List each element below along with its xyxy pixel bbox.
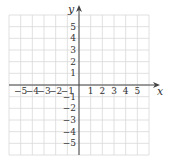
y-tick-label: 2 [70,57,76,67]
x-tick-labels: −5−4−3−2−112345 [14,86,140,96]
y-tick-label: 3 [70,45,76,55]
y-tick-label: −2 [63,103,76,113]
x-axis-label: x [157,85,164,98]
coordinate-plane: x y −5−4−3−2−112345 54321−1−2−3−4−5 [0,0,171,164]
y-tick-label: 4 [70,33,76,43]
x-tick-label: 4 [123,86,129,96]
y-tick-label: −3 [63,115,77,125]
y-tick-label: 5 [70,22,76,32]
y-tick-label: −5 [63,138,77,148]
x-tick-label: 2 [99,86,105,96]
x-tick-label: 5 [134,86,140,96]
y-tick-label: −1 [63,92,76,102]
y-axis-label: y [67,3,75,16]
x-tick-label: 3 [111,86,117,96]
y-tick-label: −4 [63,127,77,137]
y-tick-label: 1 [70,68,76,78]
x-tick-label: 1 [88,86,94,96]
